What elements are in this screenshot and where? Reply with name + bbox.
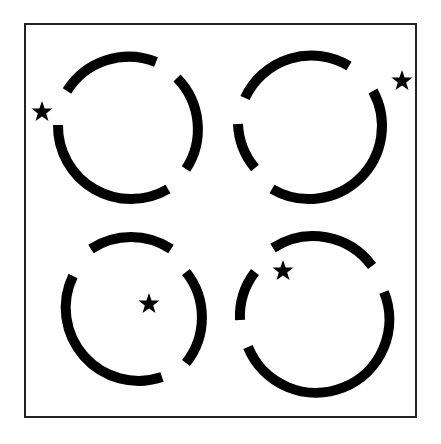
- arc-segment: [186, 272, 202, 363]
- arc-segment: [66, 276, 162, 381]
- circle-bottom-left: [66, 237, 202, 381]
- arc-segment: [177, 78, 198, 169]
- star-icon: [32, 101, 53, 121]
- star-icon: [392, 70, 413, 90]
- star-icon: [139, 293, 160, 313]
- figure-canvas: [0, 0, 441, 444]
- arc-segment: [245, 56, 349, 98]
- arc-segment: [272, 91, 382, 199]
- arc-segment: [58, 125, 168, 199]
- circle-top-left: [58, 57, 198, 199]
- arc-segment: [248, 292, 389, 393]
- arc-segment: [240, 272, 255, 320]
- arc-segment: [238, 124, 255, 168]
- circle-bottom-right: [240, 236, 389, 393]
- arc-segment: [67, 57, 156, 91]
- circle-top-right: [238, 56, 382, 200]
- star-icon: [273, 260, 294, 280]
- arc-segment: [91, 237, 171, 249]
- arc-segment: [273, 236, 372, 266]
